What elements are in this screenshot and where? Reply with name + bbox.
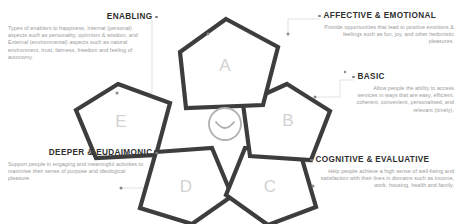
pentagon-A-label: A [219,56,231,75]
diagram-canvas: E D C B A [0,0,456,224]
callout-deeper-eudaimonic[interactable]: DEEPER & EUDAIMONIC Support people in en… [8,148,158,183]
callout-deeper-body: Support people in engaging and meaningfu… [8,161,148,183]
bullet-dot-icon [155,16,158,19]
smiley-circle [209,108,241,140]
callout-affective-heading-row: AFFECTIVE & EMOTIONAL [318,11,454,21]
callout-cognitive-heading: COGNITIVE & EVALUATIVE [316,155,430,165]
callout-deeper-heading: DEEPER & EUDAIMONIC [49,148,153,158]
callout-enabling-heading: ENABLING [107,12,153,22]
pentagon-C-label: C [264,177,276,196]
pentagon-E-label: E [115,112,126,131]
callout-affective-emotional[interactable]: AFFECTIVE & EMOTIONAL Provide opportunit… [318,11,454,46]
callout-cognitive-evaluative[interactable]: COGNITIVE & EVALUATIVE Help people achie… [310,155,454,190]
smiley-face-icon [209,108,241,140]
callout-basic-heading-row: BASIC [352,72,454,82]
callout-deeper-heading-row: DEEPER & EUDAIMONIC [8,148,158,158]
leader-basic [316,80,354,97]
leader-affective [288,19,320,33]
callout-basic[interactable]: BASIC Allow people the ability to access… [352,72,454,114]
callout-affective-heading: AFFECTIVE & EMOTIONAL [324,11,436,21]
bullet-dot-icon [318,15,321,18]
connector-dot-deeper [120,187,123,190]
connector-dot-enabling [116,92,119,95]
callout-affective-body: Provide opportunities that lead to posit… [318,24,454,46]
callout-basic-heading: BASIC [358,72,385,82]
callout-enabling-heading-row: ENABLING [8,12,158,22]
bullet-dot-icon [352,76,355,79]
pentagon-A[interactable]: A [180,19,278,108]
connector-dot-affective [287,33,290,36]
callout-enabling-body: Types of enablers to happiness, Internal… [8,25,148,61]
pentagon-E[interactable]: E [76,84,170,158]
callout-enabling[interactable]: ENABLING Types of enablers to happiness,… [8,12,158,61]
bullet-dot-icon [310,159,313,162]
callout-cognitive-body: Help people achieve a high sense of well… [310,168,454,190]
bullet-dot-icon [155,152,158,155]
callout-basic-body: Allow people the ability to access servi… [352,85,454,114]
callout-cognitive-heading-row: COGNITIVE & EVALUATIVE [310,155,454,165]
pentagon-B-label: B [282,111,293,130]
connector-dot-basic [314,96,317,99]
connector-dot-aux [344,71,346,73]
pentagon-D-label: D [180,177,192,196]
connector-dot-pentagon-a [207,33,210,36]
